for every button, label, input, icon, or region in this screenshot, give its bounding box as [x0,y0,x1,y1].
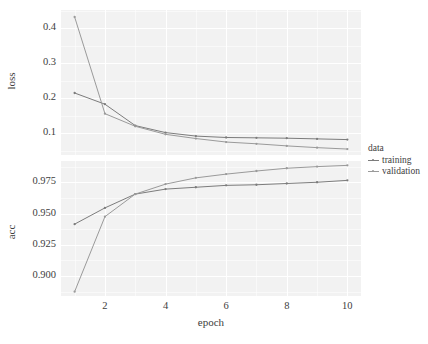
data-point-validation [164,183,166,185]
legend: data training validation [368,143,428,176]
legend-title: data [368,143,428,153]
data-point-training [104,103,106,105]
data-point-training [255,184,257,186]
data-point-validation [225,173,227,175]
data-point-validation [255,170,257,172]
training-history-chart: loss acc 0.10.20.30.40.9000.9250.9500.97… [0,0,428,344]
data-point-validation [346,164,348,166]
series-line-training [75,180,348,224]
data-point-validation [73,16,75,18]
data-point-training [164,188,166,190]
data-point-training [225,136,227,138]
data-point-training [346,138,348,140]
data-point-validation [104,113,106,115]
data-point-validation [164,133,166,135]
data-point-training [316,138,318,140]
data-point-validation [346,148,348,150]
data-point-training [316,181,318,183]
x-axis-label: epoch [61,316,361,328]
legend-key-training-icon [368,156,379,165]
legend-item-training[interactable]: training [368,155,428,165]
legend-label-training: training [382,155,412,165]
data-point-training [73,223,75,225]
data-point-training [73,92,75,94]
data-point-validation [225,141,227,143]
data-point-validation [286,145,288,147]
data-point-validation [195,137,197,139]
data-point-training [195,135,197,137]
data-point-validation [286,167,288,169]
data-point-training [255,137,257,139]
data-point-training [225,184,227,186]
legend-key-validation-icon [368,167,379,176]
data-point-training [195,186,197,188]
data-point-validation [255,143,257,145]
data-point-training [286,182,288,184]
series-line-training [75,93,348,140]
data-point-validation [134,193,136,195]
series-line-validation [75,17,348,149]
data-point-validation [195,177,197,179]
data-point-training [286,137,288,139]
data-point-training [104,207,106,209]
data-point-validation [73,290,75,292]
legend-item-validation[interactable]: validation [368,166,428,176]
legend-label-validation: validation [382,166,420,176]
data-point-validation [134,125,136,127]
data-point-training [346,179,348,181]
data-point-validation [104,215,106,217]
data-point-validation [316,165,318,167]
series-plot-area [0,0,428,344]
series-line-validation [75,165,348,291]
data-point-validation [316,146,318,148]
